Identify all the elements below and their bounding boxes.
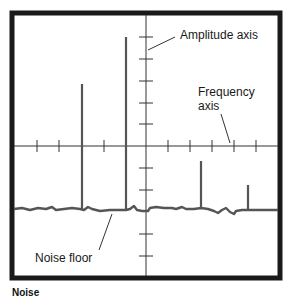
noise-floor-leader-line [99, 214, 112, 250]
amplitude-axis-label: Amplitude axis [180, 29, 258, 42]
signal-spikes [82, 37, 248, 210]
caption-partial: Noise [12, 287, 39, 298]
frequency-leader-line [221, 114, 230, 143]
frequency-axis-label-line2: axis [198, 100, 219, 113]
frequency-axis-label-line1: Frequency [198, 86, 255, 99]
noise-floor-label: Noise floor [35, 252, 92, 265]
amplitude-leader-line [148, 37, 175, 50]
